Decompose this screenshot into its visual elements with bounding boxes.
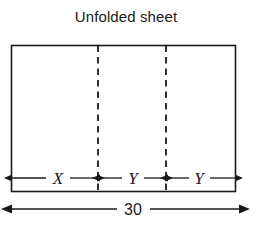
dim-label-y-2: Y (194, 169, 205, 188)
dim-label-y-1: Y (128, 169, 139, 188)
unfolded-sheet-figure: Unfolded sheet X Y (0, 0, 267, 241)
diagram-canvas: X Y Y 30 (0, 0, 267, 241)
dim-label-total: 30 (124, 201, 142, 218)
dim-label-x: X (52, 169, 64, 188)
